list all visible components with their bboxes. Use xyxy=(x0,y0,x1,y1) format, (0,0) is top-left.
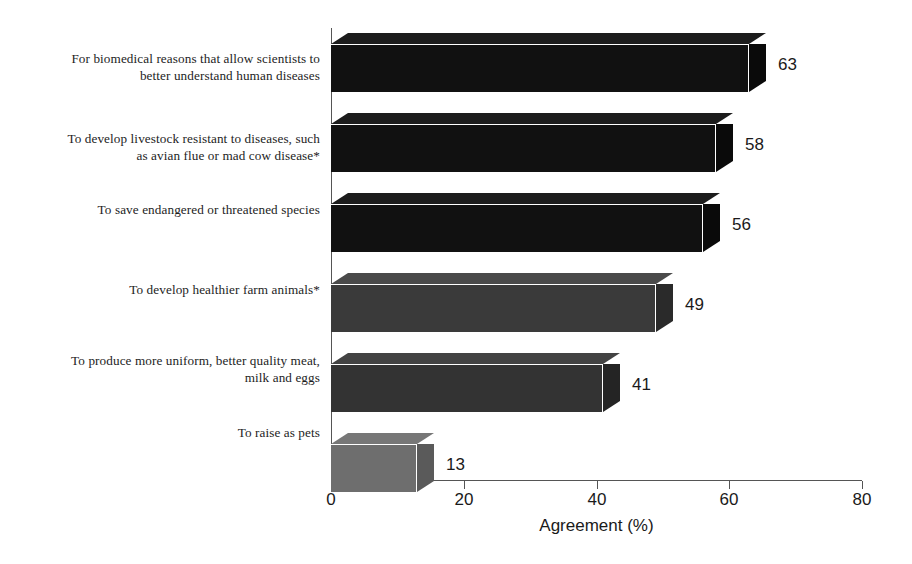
bar-side-face xyxy=(749,44,766,92)
bar-side-face xyxy=(603,364,620,412)
bar-5[interactable] xyxy=(331,433,434,492)
x-axis-tick xyxy=(729,481,730,489)
bar-side-face xyxy=(417,444,434,492)
bar-chart: For biomedical reasons that allow scient… xyxy=(0,0,912,564)
bar-front-face xyxy=(331,44,749,92)
category-label-line: To save endangered or threatened species xyxy=(20,201,320,218)
bar-side-face-fill xyxy=(656,284,673,332)
bar-top-face xyxy=(331,193,720,204)
x-axis-tick xyxy=(464,481,465,489)
bar-top-face xyxy=(331,113,733,124)
bar-front-face xyxy=(331,204,703,252)
bar-value-label-0: 63 xyxy=(778,55,797,75)
bar-value-label-4: 41 xyxy=(632,375,651,395)
category-label-0: For biomedical reasons that allow scient… xyxy=(20,50,320,84)
category-label-1: To develop livestock resistant to diseas… xyxy=(20,130,320,164)
bar-front-face xyxy=(331,364,603,412)
bar-side-face-fill xyxy=(716,124,733,172)
category-label-line: For biomedical reasons that allow scient… xyxy=(20,50,320,67)
bar-value-label-3: 49 xyxy=(685,295,704,315)
x-axis-tick-label: 80 xyxy=(832,490,892,510)
plot-area: 0 20 40 60 80 635856494113 xyxy=(331,20,862,480)
y-axis-line xyxy=(331,28,332,480)
bar-front-face xyxy=(331,444,417,492)
bar-side-face xyxy=(703,204,720,252)
bar-top-face-fill xyxy=(331,353,620,364)
category-label-line: milk and eggs xyxy=(20,369,320,386)
bar-3[interactable] xyxy=(331,273,673,332)
bar-1[interactable] xyxy=(331,113,733,172)
x-axis-title: Agreement (%) xyxy=(331,516,862,536)
bar-value-label-5: 13 xyxy=(446,455,465,475)
bar-side-face-fill xyxy=(749,44,766,92)
bar-value-label-1: 58 xyxy=(745,135,764,155)
bar-2[interactable] xyxy=(331,193,720,252)
category-label-line: better understand human diseases xyxy=(20,67,320,84)
bar-value-label-2: 56 xyxy=(732,215,751,235)
category-label-3: To develop healthier farm animals* xyxy=(20,281,320,298)
bar-side-face-fill xyxy=(417,444,434,492)
category-label-line: To develop healthier farm animals* xyxy=(20,281,320,298)
bar-front-face xyxy=(331,124,716,172)
bar-top-face-fill xyxy=(331,113,733,124)
x-axis-tick-label: 60 xyxy=(699,490,759,510)
bar-side-face xyxy=(656,284,673,332)
bar-top-face xyxy=(331,353,620,364)
bar-0[interactable] xyxy=(331,33,766,92)
bar-top-face-fill xyxy=(331,193,720,204)
category-label-5: To raise as pets xyxy=(20,424,320,441)
bar-top-face xyxy=(331,273,673,284)
category-label-line: To raise as pets xyxy=(20,424,320,441)
x-axis-tick xyxy=(862,481,863,489)
bar-4[interactable] xyxy=(331,353,620,412)
x-axis-tick xyxy=(597,481,598,489)
bar-top-face xyxy=(331,33,766,44)
bar-top-face xyxy=(331,433,434,444)
x-axis-tick-label: 0 xyxy=(301,490,361,510)
x-axis-tick-label: 20 xyxy=(434,490,494,510)
x-axis-tick-label: 40 xyxy=(567,490,627,510)
category-label-line: To develop livestock resistant to diseas… xyxy=(20,130,320,147)
bar-side-face-fill xyxy=(703,204,720,252)
bar-top-face-fill xyxy=(331,273,673,284)
bar-top-face-fill xyxy=(331,33,766,44)
category-label-line: as avian flue or mad cow disease* xyxy=(20,147,320,164)
bar-side-face-fill xyxy=(603,364,620,412)
category-label-2: To save endangered or threatened species xyxy=(20,201,320,218)
category-label-4: To produce more uniform, better quality … xyxy=(20,352,320,386)
category-label-line: To produce more uniform, better quality … xyxy=(20,352,320,369)
bar-front-face xyxy=(331,284,656,332)
bar-side-face xyxy=(716,124,733,172)
bar-top-face-fill xyxy=(331,433,434,444)
